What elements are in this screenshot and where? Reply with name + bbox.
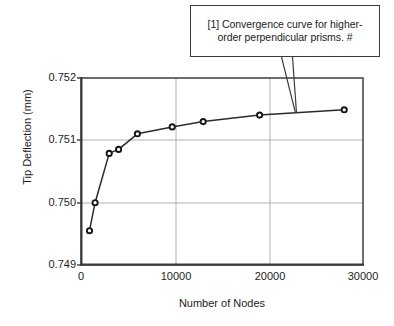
plot-frame (81, 78, 363, 265)
data-point-0 (87, 228, 92, 233)
data-point-5 (170, 124, 175, 129)
x-tick-label-20000: 20000 (230, 270, 310, 282)
x-tick-label-10000: 10000 (136, 270, 216, 282)
data-point-4 (135, 131, 140, 136)
y-axis-title: Tip Deflection (mm) (21, 57, 33, 217)
callout-pointer (282, 57, 297, 113)
data-point-8 (342, 107, 347, 112)
figure-container: [1] Convergence curve for higher- order … (0, 0, 394, 326)
x-tick-label-0: 0 (41, 270, 121, 282)
y-tick-label-0.752: 0.752 (28, 71, 76, 83)
series-line-tip-deflection (90, 110, 345, 231)
y-tick-label-0.750: 0.750 (28, 196, 76, 208)
data-point-2 (107, 151, 112, 156)
axis-spines (81, 78, 363, 265)
data-point-1 (93, 200, 98, 205)
data-point-6 (201, 119, 206, 124)
y-tick-label-0.749: 0.749 (28, 258, 76, 270)
data-point-7 (257, 113, 262, 118)
y-tick-label-0.751: 0.751 (28, 133, 76, 145)
callout-annotation-text: [1] Convergence curve for higher- order … (200, 18, 371, 45)
series-markers-tip-deflection (87, 107, 347, 233)
x-tick-label-30000: 30000 (323, 270, 394, 282)
grid-lines (81, 78, 363, 265)
callout-line-2: order perpendicular prisms. # (217, 31, 352, 43)
callout-line-1: [1] Convergence curve for higher- (208, 18, 363, 30)
x-axis-title: Number of Nodes (81, 297, 363, 309)
callout-annotation-box: [1] Convergence curve for higher- order … (190, 5, 380, 57)
data-point-3 (116, 147, 121, 152)
